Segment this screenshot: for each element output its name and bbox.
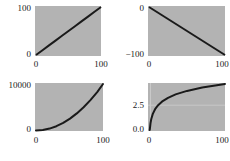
xtick-label-quadratic-left: 0: [34, 136, 39, 145]
plot-panel-quadratic[interactable]: [35, 83, 103, 131]
curve-y-equals-x: [36, 7, 101, 55]
line-series-quadratic: [35, 83, 103, 131]
plot-panel-linear[interactable]: [35, 6, 101, 56]
plot-panel-negative[interactable]: [148, 6, 225, 56]
ytick-label-linear-top: 100: [5, 4, 31, 13]
curve-y-equals-minus-x: [149, 7, 225, 55]
line-series-linear: [35, 6, 101, 56]
xtick-label-negative-left: 0: [147, 60, 152, 69]
plot-panel-logarithmic[interactable]: [148, 83, 225, 131]
ytick-label-quadratic-top: 10000: [0, 81, 31, 90]
xtick-label-linear-left: 0: [34, 60, 39, 69]
line-series-negative: [148, 6, 225, 56]
xtick-label-quadratic-right: 100: [96, 136, 110, 145]
curve-y-equals-log-x: [150, 84, 225, 130]
xtick-label-log-right: 100: [215, 136, 229, 145]
ytick-label-linear-bottom: 0: [5, 50, 31, 59]
ytick-label-log-mid: 2.5: [118, 101, 144, 110]
xtick-label-negative-right: 100: [215, 60, 229, 69]
ytick-label-quadratic-bottom: 0: [0, 125, 31, 134]
ytick-label-log-bottom: 0.0: [118, 125, 144, 134]
figure-canvas: 100 0 0 100 0 −100 0 100 10000 0 0 100 2…: [0, 0, 230, 161]
curve-y-equals-x-squared: [36, 84, 103, 131]
xtick-label-linear-right: 100: [94, 60, 108, 69]
ytick-label-negative-top: 0: [112, 4, 144, 13]
line-series-logarithmic: [148, 83, 225, 131]
ytick-label-negative-bottom: −100: [112, 50, 144, 59]
xtick-label-log-left: 0: [147, 136, 152, 145]
